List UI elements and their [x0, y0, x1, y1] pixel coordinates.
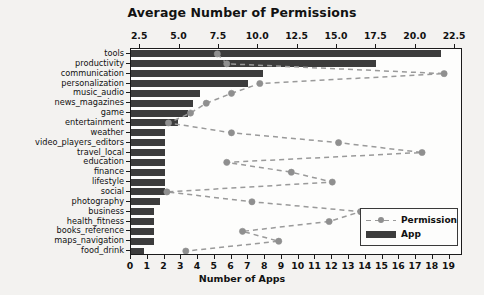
y-axis-label-communication: communication: [61, 69, 124, 77]
bottom-axis-tick: [432, 255, 433, 259]
permission-marker-lifestyle: [329, 179, 335, 185]
y-axis-category-labels: toolsproductivitycommunicationpersonaliz…: [0, 48, 128, 255]
y-axis-label-news_magazines: news_magazines: [54, 98, 124, 106]
permission-marker-education: [224, 159, 230, 165]
y-axis-label-weather: weather: [90, 128, 124, 136]
top-axis-tick-label: 12.5: [285, 30, 308, 41]
top-axis-tick-label: 7.5: [210, 30, 226, 41]
y-axis-label-maps_navigation: maps_navigation: [54, 236, 124, 244]
bottom-axis-tick-label: 6: [227, 260, 233, 271]
permission-marker-communication: [441, 71, 447, 77]
bottom-axis-tick-label: 16: [392, 260, 405, 271]
legend-line-marker-icon: [366, 215, 396, 225]
bottom-axis-tick-label: 15: [375, 260, 388, 271]
bottom-axis-tick-label: 14: [358, 260, 371, 271]
permission-marker-photography: [249, 199, 255, 205]
bottom-axis-tick: [264, 255, 265, 259]
bottom-axis-tick: [415, 255, 416, 259]
legend-label-permission: Permission: [401, 215, 457, 225]
bottom-axis-tick: [214, 255, 215, 259]
bottom-axis-tick: [180, 255, 181, 259]
bottom-axis-tick-label: 5: [211, 260, 217, 271]
chart-figure: Average Number of Permissions toolsprodu…: [0, 0, 484, 295]
bottom-axis-tick-label: 7: [244, 260, 250, 271]
top-axis-tick: [297, 44, 298, 48]
top-axis-tick: [179, 44, 180, 48]
legend-label-app: App: [401, 229, 421, 239]
permission-marker-news_magazines: [203, 100, 209, 106]
permission-marker-entertainment: [165, 120, 171, 126]
permission-marker-video_players_editors: [335, 140, 341, 146]
top-axis-tick-label: 10.0: [246, 30, 269, 41]
bottom-axis-tick-label: 0: [127, 260, 133, 271]
permission-marker-tools: [214, 51, 220, 57]
top-axis-tick: [218, 44, 219, 48]
bottom-axis-tick: [281, 255, 282, 259]
y-axis-label-social: social: [101, 187, 124, 195]
bottom-axis-tick-label: 10: [291, 260, 304, 271]
bottom-axis-tick-label: 8: [261, 260, 267, 271]
permission-marker-books_reference: [239, 228, 245, 234]
y-axis-label-productivity: productivity: [75, 59, 124, 67]
bottom-axis-title: Number of Apps: [0, 273, 484, 284]
y-axis-label-video_players_editors: video_players_editors: [35, 138, 124, 146]
bottom-axis-tick: [398, 255, 399, 259]
bottom-axis-tick: [449, 255, 450, 259]
top-axis-tick-label: 17.5: [364, 30, 387, 41]
bottom-axis-tick: [314, 255, 315, 259]
bottom-axis-tick: [197, 255, 198, 259]
bottom-axis-tick-label: 9: [278, 260, 284, 271]
bottom-axis-tick-label: 4: [194, 260, 200, 271]
top-axis-tick: [139, 44, 140, 48]
bottom-axis-tick-label: 13: [341, 260, 354, 271]
legend-bar-swatch-icon: [366, 231, 396, 238]
permission-marker-productivity: [224, 61, 230, 67]
top-axis-tick-label: 2.5: [131, 30, 147, 41]
top-axis-tick: [257, 44, 258, 48]
legend-item-app: App: [366, 227, 452, 241]
bottom-axis-tick: [147, 255, 148, 259]
top-axis-tick: [454, 44, 455, 48]
permission-marker-health_fitness: [326, 218, 332, 224]
bottom-axis-tick: [130, 255, 131, 259]
bottom-axis-tick: [382, 255, 383, 259]
permission-marker-finance: [288, 169, 294, 175]
permission-marker-food_drink: [183, 248, 189, 254]
chart-legend: Permission App: [360, 208, 458, 246]
y-axis-label-personalization: personalization: [61, 78, 124, 86]
y-axis-label-education: education: [83, 157, 124, 165]
y-axis-label-music_audio: music_audio: [73, 88, 124, 96]
bottom-axis-tick: [164, 255, 165, 259]
bottom-axis-tick: [365, 255, 366, 259]
y-axis-label-health_fitness: health_fitness: [67, 216, 124, 224]
permission-marker-social: [164, 189, 170, 195]
top-axis-tick: [415, 44, 416, 48]
bottom-axis-tick: [247, 255, 248, 259]
y-axis-label-photography: photography: [72, 197, 124, 205]
legend-item-permission: Permission: [366, 213, 452, 227]
permission-marker-maps_navigation: [276, 238, 282, 244]
bottom-axis-tick-label: 12: [325, 260, 338, 271]
bottom-axis-tick-label: 3: [177, 260, 183, 271]
permission-marker-game: [187, 110, 193, 116]
bottom-axis-tick: [231, 255, 232, 259]
top-axis-tick-label: 20.0: [403, 30, 426, 41]
top-axis-tick: [375, 44, 376, 48]
permission-marker-personalization: [257, 80, 263, 86]
bottom-axis-tick-label: 18: [425, 260, 438, 271]
bottom-axis-tick-label: 1: [144, 260, 150, 271]
permission-marker-travel_local: [419, 149, 425, 155]
bottom-axis-tick: [331, 255, 332, 259]
top-axis-tick-label: 5.0: [170, 30, 186, 41]
y-axis-label-business: business: [88, 207, 124, 215]
top-axis-tick-label: 22.5: [443, 30, 466, 41]
bottom-axis-tick-label: 17: [409, 260, 422, 271]
bottom-axis-tick-label: 19: [442, 260, 455, 271]
y-axis-label-lifestyle: lifestyle: [92, 177, 124, 185]
y-axis-label-tools: tools: [104, 49, 124, 57]
y-axis-label-food_drink: food_drink: [81, 246, 124, 254]
bottom-axis-tick-label: 2: [160, 260, 166, 271]
y-axis-label-books_reference: books_reference: [57, 226, 124, 234]
permission-marker-weather: [228, 130, 234, 136]
bottom-axis-tick-label: 11: [308, 260, 321, 271]
